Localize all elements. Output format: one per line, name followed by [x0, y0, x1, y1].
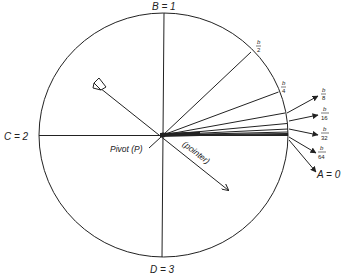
label-a-equals-0: A = 0	[316, 169, 341, 180]
svg-text:32: 32	[321, 135, 328, 141]
fraction-b-over-32: b 32	[321, 126, 329, 141]
pointer-arrow	[100, 88, 228, 190]
label-b-equals-1: B = 1	[152, 1, 176, 12]
svg-text:4: 4	[282, 88, 286, 94]
dial-diagram: B = 1 C = 2 D = 3 A = 0 Pivot (P) (point…	[0, 0, 349, 276]
svg-text:b: b	[323, 126, 327, 132]
svg-text:8: 8	[322, 95, 326, 101]
svg-text:b: b	[323, 106, 327, 112]
fraction-b-over-16: b 16	[321, 106, 329, 121]
fraction-leaders	[287, 96, 318, 172]
label-pointer: (pointer)	[181, 139, 212, 166]
fraction-b-over-64: b 64	[318, 145, 326, 160]
label-pivot: Pivot (P)	[110, 144, 143, 154]
svg-text:64: 64	[318, 154, 325, 160]
fraction-rays	[163, 52, 288, 135]
label-d-equals-3: D = 3	[150, 264, 175, 275]
svg-text:b: b	[282, 80, 286, 86]
pivot-leader	[149, 137, 161, 148]
label-c-equals-2: C = 2	[4, 131, 29, 142]
svg-text:16: 16	[321, 115, 328, 121]
svg-text:b: b	[322, 87, 326, 93]
svg-text:b: b	[257, 39, 261, 45]
svg-text:b: b	[320, 145, 324, 151]
fraction-b-over-8: b 8	[321, 87, 326, 101]
pointer-fletching-icon	[93, 78, 106, 90]
fraction-b-over-2: b 2	[256, 39, 261, 53]
fraction-b-over-4: b 4	[281, 80, 286, 94]
svg-text:2: 2	[257, 47, 261, 53]
